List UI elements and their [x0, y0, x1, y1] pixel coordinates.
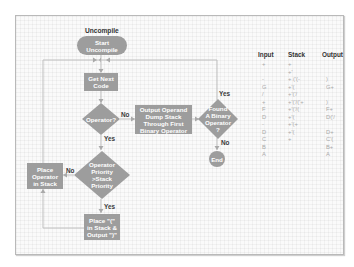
cell-input: A: [258, 151, 288, 159]
arrowhead-end: [215, 146, 220, 150]
cell-output: D('/: [320, 114, 350, 122]
table-row: G+'(G+: [258, 84, 350, 92]
table-row: -+'(+: [258, 121, 350, 129]
priority-decision-label: Operator Priority >Stack Priority: [74, 151, 130, 199]
edge-label-operator-no: No: [121, 111, 130, 118]
table-row: C+C'(: [258, 136, 350, 144]
place-paren-node: Place "(" in Stack & Output ")": [84, 214, 120, 240]
table-row: /+'('/: [258, 91, 350, 99]
cell-output: F+: [320, 106, 350, 114]
cell-input: /: [258, 91, 288, 99]
cell-stack: +': [288, 69, 320, 77]
cell-output: [320, 69, 350, 77]
cell-input: B: [258, 144, 288, 152]
table-row: ++'('/('+): [258, 99, 350, 107]
cell-input: C: [258, 136, 288, 144]
cell-output: ): [320, 76, 350, 84]
arrowhead-place-paren: [99, 209, 104, 213]
cell-stack: +: [288, 61, 320, 69]
trace-table: Input Stack Output +++'-+ ('(-)G+'(G+/+'…: [258, 51, 350, 159]
header-input: Input: [258, 51, 288, 58]
cell-input: -: [258, 76, 288, 84]
table-row: +': [258, 69, 350, 77]
arrowhead-loop-right: [106, 58, 110, 63]
arrowhead-place-operator-bottom: [41, 189, 46, 193]
cell-output: [320, 61, 350, 69]
found-binary-label: Found A Binary Operator ?: [198, 99, 238, 139]
cell-stack: +'(+: [288, 121, 320, 129]
trace-table-body: +++'-+ ('(-)G+'(G+/+'('/++'('/('+)F+'('/…: [258, 61, 350, 159]
table-row: F+'('/(F+: [258, 106, 350, 114]
cell-stack: +'('/('+: [288, 99, 320, 107]
table-row: BB+: [258, 144, 350, 152]
cell-stack: +'(: [288, 114, 320, 122]
cell-output: ): [320, 99, 350, 107]
cell-stack: +'(: [288, 129, 320, 137]
cell-stack: +'('/(: [288, 106, 320, 114]
found-binary-decision: Found A Binary Operator ?: [198, 99, 238, 139]
edge-label-priority-no: No: [66, 167, 75, 174]
edge-label-operator-yes: Yes: [104, 135, 115, 142]
table-row: AA: [258, 151, 350, 159]
table-row: -+ ('(-): [258, 76, 350, 84]
cell-stack: + ('(-: [288, 76, 320, 84]
start-node: Start Uncompile: [77, 36, 127, 55]
cell-stack: +'('/: [288, 91, 320, 99]
cell-input: D: [258, 129, 288, 137]
cell-output: D+: [320, 129, 350, 137]
get-next-code-node: Get Next Code: [84, 73, 118, 91]
cell-input: F: [258, 106, 288, 114]
operator-decision-label: Operator?: [82, 103, 120, 135]
cell-stack: [288, 151, 320, 159]
cell-stack: +'(: [288, 84, 320, 92]
cell-output: G+: [320, 84, 350, 92]
cell-input: +: [258, 99, 288, 107]
cell-output: [320, 121, 350, 129]
header-stack: Stack: [288, 51, 320, 58]
operator-decision: Operator?: [82, 103, 120, 135]
edge-label-found-no: No: [221, 139, 230, 146]
edge-label-priority-yes: Yes: [104, 203, 115, 210]
table-row: D+'(D+: [258, 129, 350, 137]
cell-output: B+: [320, 144, 350, 152]
arrowhead-priority: [99, 146, 104, 150]
cell-stack: [288, 144, 320, 152]
place-operator-node: Place Operator in Stack: [27, 163, 63, 189]
cell-output: A: [320, 151, 350, 159]
cell-output: C'(: [320, 136, 350, 144]
cell-input: +: [258, 61, 288, 69]
cell-input: G: [258, 84, 288, 92]
edge-label-found-yes: Yes: [219, 90, 230, 97]
header-output: Output: [320, 51, 350, 58]
table-row: ++: [258, 61, 350, 69]
cell-stack: +: [288, 136, 320, 144]
end-node: End: [209, 151, 225, 167]
output-operand-node: Output Operand Dump Stack Through First …: [135, 105, 192, 134]
priority-decision: Operator Priority >Stack Priority: [74, 151, 130, 199]
cell-output: [320, 91, 350, 99]
cell-input: D: [258, 114, 288, 122]
cell-input: -: [258, 121, 288, 129]
arrowhead-loop-left: [93, 58, 97, 63]
cell-input: [258, 69, 288, 77]
diagram-title: Uncompile: [85, 27, 119, 34]
trace-table-header: Input Stack Output: [258, 51, 350, 58]
table-row: D+'(D('/: [258, 114, 350, 122]
